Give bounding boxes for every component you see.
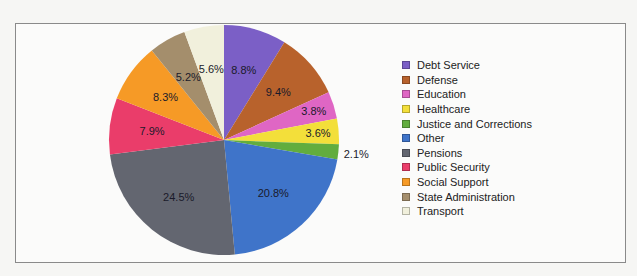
legend-label: Social Support [417,176,489,188]
legend-label: State Administration [417,191,515,203]
legend-swatch [402,90,410,98]
legend-swatch [402,134,410,142]
slice-label: 24.5% [163,191,194,203]
legend-swatch [402,193,410,201]
slice-label: 5.6% [199,63,224,75]
slice-label: 8.3% [153,91,178,103]
legend-item: Other [402,131,532,146]
legend-swatch [402,120,410,128]
legend-swatch [402,61,410,69]
legend-swatch [402,207,410,215]
legend-label: Public Security [417,161,490,173]
legend-item: Debt Service [402,58,532,73]
legend-item: Justice and Corrections [402,116,532,131]
legend-label: Justice and Corrections [417,118,532,130]
legend-label: Other [417,132,445,144]
legend-item: Healthcare [402,102,532,117]
slice-label: 8.8% [231,64,256,76]
slice-label: 3.6% [305,127,330,139]
legend-item: Public Security [402,160,532,175]
legend-item: Education [402,87,532,102]
legend-label: Defense [417,74,458,86]
slice-label: 2.1% [344,148,369,160]
slice-label: 9.4% [266,86,291,98]
legend: Debt ServiceDefenseEducationHealthcareJu… [402,58,532,219]
slice-label: 5.2% [176,71,201,83]
legend-label: Debt Service [417,59,480,71]
legend-label: Education [417,88,466,100]
legend-label: Transport [417,205,464,217]
legend-label: Healthcare [417,103,470,115]
legend-item: Social Support [402,175,532,190]
legend-swatch [402,105,410,113]
legend-item: Defense [402,73,532,88]
legend-swatch [402,178,410,186]
legend-label: Pensions [417,147,462,159]
pie-chart: 8.8%9.4%3.8%3.6%2.1%20.8%24.5%7.9%8.3%5.… [0,0,637,276]
legend-item: Transport [402,204,532,219]
slice-label: 20.8% [258,187,289,199]
legend-swatch [402,163,410,171]
legend-item: State Administration [402,189,532,204]
legend-swatch [402,149,410,157]
slice-label: 7.9% [140,125,165,137]
pie-slices [109,25,339,255]
legend-swatch [402,76,410,84]
legend-item: Pensions [402,146,532,161]
slice-label: 3.8% [301,105,326,117]
